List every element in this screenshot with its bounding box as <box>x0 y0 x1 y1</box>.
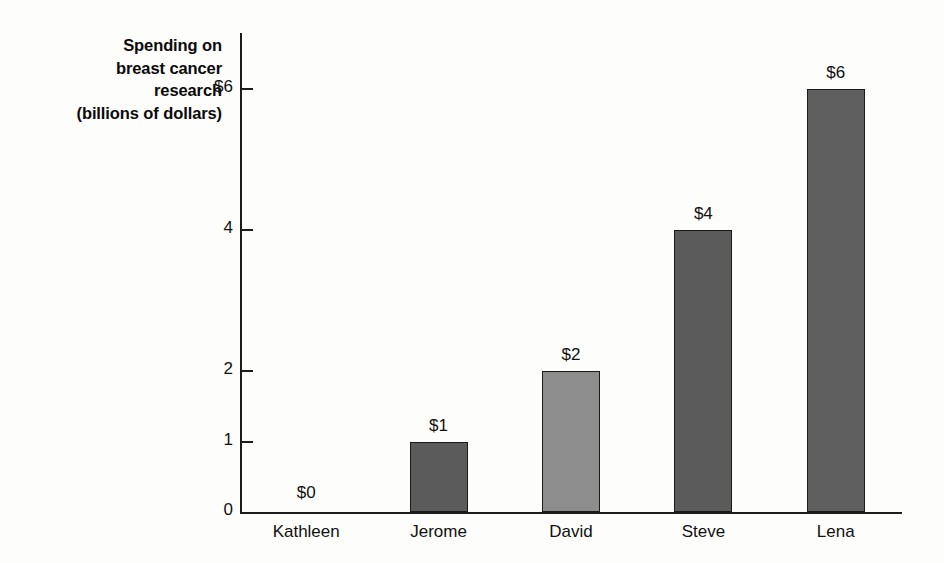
bar-value-label: $6 <box>826 63 845 83</box>
x-category-label: David <box>549 522 592 542</box>
bar-value-label: $1 <box>429 416 448 436</box>
bar-slot: $4Steve <box>637 33 769 514</box>
bar-slot: $1Jerome <box>372 33 504 514</box>
bar-david[interactable]: $2 <box>542 371 600 512</box>
y-tick-label: 1 <box>224 430 233 450</box>
bar-steve[interactable]: $4 <box>674 230 732 512</box>
plot-area: 0124$6 $0Kathleen$1Jerome$2David$4Steve$… <box>240 33 902 514</box>
chart-page: Spending on breast cancer research (bill… <box>0 0 944 563</box>
x-category-label: Jerome <box>410 522 467 542</box>
y-axis-title-line-3: research <box>10 79 222 102</box>
y-axis-title: Spending on breast cancer research (bill… <box>10 34 222 124</box>
y-axis-title-line-1: Spending on <box>10 34 222 57</box>
y-tick-label: 2 <box>224 359 233 379</box>
y-tick-label: 0 <box>224 500 233 520</box>
bar-value-label: $0 <box>297 483 316 503</box>
bar-slot: $6Lena <box>770 33 902 514</box>
bar-slot: $0Kathleen <box>240 33 372 514</box>
bar-lena[interactable]: $6 <box>807 89 865 512</box>
bar-value-label: $2 <box>562 345 581 365</box>
y-tick-label: 4 <box>224 218 233 238</box>
y-axis-title-line-2: breast cancer <box>10 57 222 80</box>
y-tick-label: $6 <box>214 77 233 97</box>
bar-slot: $2David <box>505 33 637 514</box>
y-axis-title-line-4: (billions of dollars) <box>10 102 222 125</box>
x-category-label: Kathleen <box>273 522 340 542</box>
x-category-label: Lena <box>817 522 855 542</box>
bar-jerome[interactable]: $1 <box>410 442 468 512</box>
bar-value-label: $4 <box>694 204 713 224</box>
x-category-label: Steve <box>682 522 725 542</box>
